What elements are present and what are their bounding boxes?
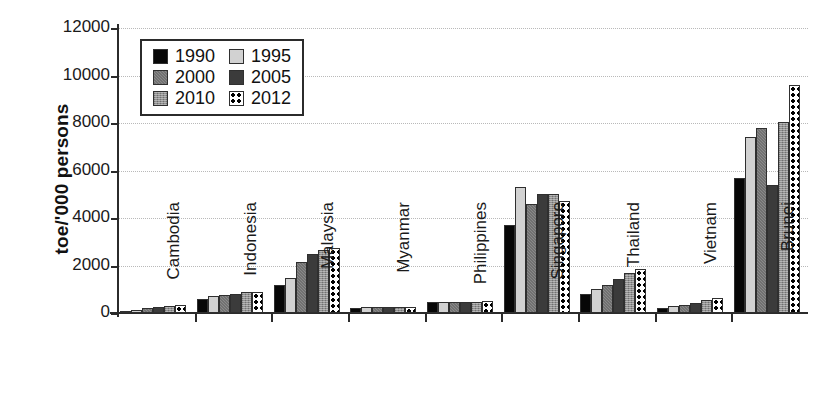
bar <box>460 302 471 313</box>
x-axis-tick <box>655 313 657 322</box>
x-axis-label-philippines: Philippines <box>471 202 491 322</box>
bar <box>296 262 307 313</box>
bar <box>427 302 438 313</box>
legend-item-2010[interactable]: 2010 <box>153 89 215 107</box>
bar <box>350 308 361 313</box>
legend-swatch-icon <box>229 70 244 85</box>
bar <box>197 299 208 313</box>
x-axis-label-thailand: Thailand <box>624 202 644 322</box>
bar <box>657 308 668 313</box>
y-axis-tick <box>111 28 119 30</box>
bar <box>515 187 526 313</box>
bar <box>120 311 131 313</box>
legend-swatch-icon <box>153 91 168 106</box>
y-axis-tick <box>111 171 119 173</box>
bar <box>756 128 767 313</box>
bar <box>372 307 383 313</box>
bar <box>449 302 460 313</box>
bar <box>767 185 778 313</box>
legend-label: 1990 <box>175 47 215 65</box>
bar <box>602 285 613 314</box>
legend-item-2012[interactable]: 2012 <box>229 89 291 107</box>
bar-chart: toe/'000 persons 02000400060008000100001… <box>0 0 815 415</box>
y-axis-tick <box>111 123 119 125</box>
x-axis-tick <box>271 313 273 322</box>
x-axis-label-vietnam: Vietnam <box>701 202 721 322</box>
bar <box>219 295 230 313</box>
bar <box>153 307 164 313</box>
y-axis-tick <box>111 266 119 268</box>
legend-label: 2010 <box>175 89 215 107</box>
legend-label: 2012 <box>251 89 291 107</box>
x-axis-label-singapore: Singapore <box>548 202 568 322</box>
y-axis-tick-label: 6000 <box>38 160 110 180</box>
legend-item-1990[interactable]: 1990 <box>153 47 215 65</box>
legend-item-2005[interactable]: 2005 <box>229 68 291 86</box>
y-axis-tick <box>111 218 119 220</box>
bar <box>208 296 219 313</box>
bar <box>690 303 701 313</box>
legend-label: 2005 <box>251 68 291 86</box>
bar <box>734 178 745 313</box>
x-axis-label-myanmar: Myanmar <box>394 202 414 322</box>
y-axis-tick-label: 2000 <box>38 255 110 275</box>
x-axis-tick <box>195 313 197 322</box>
legend-label: 1995 <box>251 47 291 65</box>
bar <box>526 204 537 313</box>
bar <box>142 308 153 313</box>
bar <box>745 137 756 313</box>
legend-item-1995[interactable]: 1995 <box>229 47 291 65</box>
chart-legend: 199019952000200520102012 <box>140 39 304 116</box>
y-axis-tick <box>111 76 119 78</box>
x-axis-tick <box>501 313 503 322</box>
x-axis-tick <box>348 313 350 322</box>
bar <box>361 307 372 313</box>
y-axis-tick <box>111 313 119 315</box>
bar <box>613 279 624 313</box>
legend-swatch-icon <box>153 49 168 64</box>
y-axis-tick-labels: 020004000600080001000012000 <box>38 28 110 313</box>
bar <box>438 302 449 313</box>
bar <box>274 285 285 313</box>
legend-label: 2000 <box>175 68 215 86</box>
legend-swatch-icon <box>229 91 244 106</box>
bar <box>580 294 591 313</box>
x-axis-tick <box>578 313 580 322</box>
y-axis-tick-label: 12000 <box>38 17 110 37</box>
x-axis-tick <box>425 313 427 322</box>
x-axis-label-cambodia: Cambodia <box>164 202 184 322</box>
y-axis-tick-label: 8000 <box>38 112 110 132</box>
y-axis-tick-label: 0 <box>38 302 110 322</box>
y-axis-tick-label: 10000 <box>38 65 110 85</box>
bar <box>504 225 515 313</box>
bar <box>383 307 394 313</box>
x-axis-label-brunei: Brunei <box>778 202 798 322</box>
bar <box>285 278 296 313</box>
x-axis-label-malaysia: Malaysia <box>318 202 338 322</box>
bar <box>131 310 142 313</box>
bar <box>668 306 679 313</box>
x-axis-tick <box>731 313 733 322</box>
y-axis-tick-label: 4000 <box>38 207 110 227</box>
legend-swatch-icon <box>229 49 244 64</box>
bar <box>230 294 241 313</box>
bar <box>679 305 690 313</box>
bar <box>591 289 602 313</box>
legend-swatch-icon <box>153 70 168 85</box>
bar <box>307 254 318 313</box>
bar <box>537 194 548 313</box>
legend-item-2000[interactable]: 2000 <box>153 68 215 86</box>
x-axis-label-indonesia: Indonesia <box>241 202 261 322</box>
